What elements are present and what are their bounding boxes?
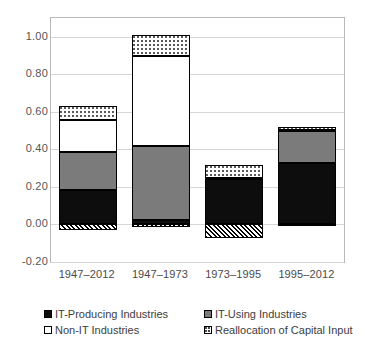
bar-segment[interactable] <box>205 178 263 180</box>
bar-segment-negative[interactable] <box>205 224 263 237</box>
gray-swatch-icon <box>204 310 212 318</box>
bar-segment[interactable] <box>205 179 263 224</box>
legend-item-label: Reallocation of Capital Input <box>215 324 353 337</box>
bar-segment[interactable] <box>132 35 190 57</box>
bar-group[interactable] <box>205 18 263 262</box>
chart-legend: IT-Producing IndustriesIT-Using Industri… <box>44 306 344 340</box>
bar-segment[interactable] <box>59 106 117 120</box>
bar-segment[interactable] <box>205 165 263 178</box>
bar-group[interactable] <box>59 18 117 262</box>
y-axis-tick-label: 0.20 <box>4 181 48 192</box>
x-axis-tick-label: 1995–2012 <box>270 268 343 281</box>
bar-segment[interactable] <box>59 190 117 225</box>
y-axis-tick-label: -0.20 <box>4 256 48 267</box>
gridline <box>51 262 344 263</box>
bar-segment-negative[interactable] <box>278 224 336 226</box>
bar-segment[interactable] <box>278 163 336 224</box>
y-axis-tick-label: 0.60 <box>4 106 48 117</box>
x-axis: 1947–20121947–19731973–19951995–2012 <box>50 268 345 286</box>
y-axis-tick-label: 0.40 <box>4 143 48 154</box>
bar-group[interactable] <box>278 18 336 262</box>
legend-item-label: IT-Producing Industries <box>55 308 168 321</box>
legend-item[interactable]: Reallocation of Capital Input <box>204 322 364 338</box>
x-axis-tick-label: 1973–1995 <box>197 268 270 281</box>
bar-segment[interactable] <box>132 146 190 220</box>
x-axis-tick-label: 1947–1973 <box>123 268 196 281</box>
chart-figure: -0.200.000.200.400.600.801.00 1947–20121… <box>0 0 365 355</box>
y-axis-tick-label: 0.80 <box>4 68 48 79</box>
y-axis: -0.200.000.200.400.600.801.00 <box>0 17 48 263</box>
bar-group[interactable] <box>132 18 190 262</box>
bar-segment[interactable] <box>278 127 336 130</box>
bar-segment[interactable] <box>278 130 336 132</box>
y-axis-tick-label: 1.00 <box>4 31 48 42</box>
black-swatch-icon <box>44 310 52 318</box>
legend-item[interactable]: IT-Using Industries <box>204 306 364 322</box>
bar-segment[interactable] <box>132 56 190 146</box>
bar-segment[interactable] <box>278 131 336 164</box>
legend-item-label: Non-IT Industries <box>55 324 139 337</box>
bar-segment-negative[interactable] <box>59 224 117 230</box>
dotted-swatch-icon <box>204 326 212 334</box>
x-axis-tick-label: 1947–2012 <box>50 268 123 281</box>
legend-item[interactable]: Non-IT Industries <box>44 322 204 338</box>
white-swatch-icon <box>44 326 52 334</box>
bar-segment[interactable] <box>59 152 117 190</box>
plot-area <box>50 17 345 263</box>
legend-item-label: IT-Using Industries <box>215 308 307 321</box>
bar-segment-negative[interactable] <box>132 224 190 227</box>
y-axis-tick-label: 0.00 <box>4 218 48 229</box>
legend-item[interactable]: IT-Producing Industries <box>44 306 204 322</box>
bar-segment[interactable] <box>59 120 117 152</box>
